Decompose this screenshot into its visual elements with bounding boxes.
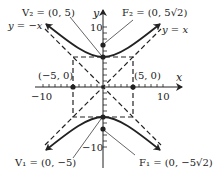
y-axis-label: y — [92, 7, 100, 20]
hyperbola-upper-branch — [103, 24, 160, 57]
point-5-0-dot — [130, 84, 135, 89]
vertex-v2-dot — [100, 54, 105, 59]
origin-dot — [101, 85, 105, 89]
f1-label: F₁ = (0, −5√2) — [139, 157, 213, 168]
y-tick-label-10: 10 — [90, 22, 103, 33]
focus-f2-dot — [100, 42, 105, 47]
hyperbola-diagram: y x 10 −10 −10 10 V₂ = (0, 5) F₂ = (0, 5… — [0, 0, 216, 174]
focus-f1-dot — [100, 126, 105, 131]
x-tick-label-10: 10 — [157, 91, 170, 102]
v2-label: V₂ = (0, 5) — [21, 7, 75, 18]
vertex-v1-dot — [100, 114, 105, 119]
hyperbola-lower-branch — [103, 117, 160, 150]
x-axis — [35, 84, 182, 87]
point-5-0-label: (5, 0) — [134, 70, 161, 81]
asymptote-neg-label: y = −x — [7, 20, 43, 31]
x-tick-label-neg10: −10 — [31, 91, 52, 102]
point-neg5-0-dot — [70, 84, 75, 89]
v1-label: V₁ = (0, −5) — [14, 157, 76, 168]
point-neg5-0-label: (−5, 0) — [38, 70, 73, 81]
y-tick-label-neg10: −10 — [82, 142, 103, 153]
x-axis-label: x — [176, 71, 183, 84]
asymptote-pos-label: y = x — [161, 24, 188, 35]
f2-label: F₂ = (0, 5√2) — [122, 7, 187, 18]
f1-leader — [105, 131, 135, 155]
f2-leader — [105, 20, 133, 43]
